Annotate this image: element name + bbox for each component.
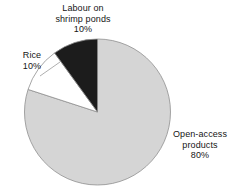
slice-label-open-access-value: 80% [168,150,232,161]
slice-label-labour-line2: shrimp ponds [33,14,133,25]
slice-label-open-access-line1: Open-access [168,129,232,140]
slice-label-open-access-products: Open-access products 80% [168,129,232,161]
pie-chart-figure: Labour on shrimp ponds 10% Rice 10% Open… [0,0,235,191]
slice-label-open-access-line2: products [168,140,232,151]
slice-label-rice-line1: Rice [8,50,56,61]
slice-label-labour-line1: Labour on [33,3,133,14]
slice-label-labour-on-shrimp-ponds: Labour on shrimp ponds 10% [33,3,133,35]
slice-label-rice-value: 10% [8,61,56,72]
slice-label-rice: Rice 10% [8,50,56,71]
slice-label-labour-value: 10% [33,24,133,35]
